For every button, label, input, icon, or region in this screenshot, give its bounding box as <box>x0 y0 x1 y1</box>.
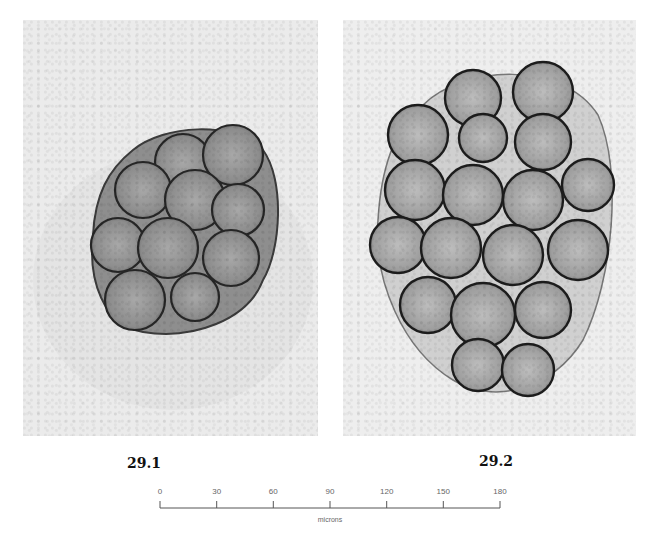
scale-tick-label: 0 <box>158 487 162 496</box>
background-texture <box>343 20 636 436</box>
scale-tick-label: 150 <box>437 487 450 496</box>
panel-caption-1: 29.1 <box>127 455 161 471</box>
panel-caption-2: 29.2 <box>479 453 513 469</box>
scale-tick-label: 60 <box>269 487 278 496</box>
micrograph-panel-2 <box>343 20 636 436</box>
scale-unit-label: microns <box>318 516 343 523</box>
scale-tick-label: 180 <box>493 487 506 496</box>
scale-tick-label: 30 <box>212 487 221 496</box>
background-texture <box>23 20 318 436</box>
micrograph-panel-1 <box>23 20 318 436</box>
scale-tick-label: 90 <box>326 487 335 496</box>
scale-tick-label: 120 <box>380 487 393 496</box>
